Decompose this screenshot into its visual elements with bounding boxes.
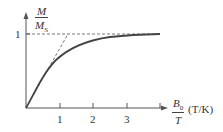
y-label-denominator: MS: [35, 18, 48, 34]
x-label-denominator: T: [172, 113, 184, 126]
y-label-numerator: M: [35, 5, 48, 18]
magnetization-curve: [26, 34, 160, 108]
x-axis-label: B0 T: [172, 97, 184, 126]
x-axis-arrow-icon: [161, 106, 168, 111]
x-label-numerator: B0: [172, 97, 184, 113]
x-tick-label-2: 2: [90, 114, 96, 125]
x-tick-label-3: 3: [124, 114, 130, 125]
x-axis-unit: (T/K): [188, 104, 213, 115]
x-tick-label-1: 1: [57, 114, 63, 125]
y-axis-label: M MS: [35, 5, 48, 34]
y-tick-label-1: 1: [15, 29, 21, 40]
y-axis-arrow-icon: [24, 12, 29, 19]
